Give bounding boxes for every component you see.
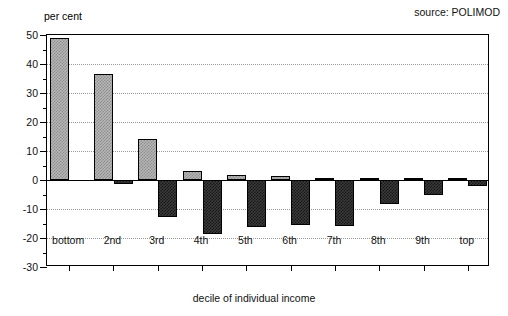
bar-gain bbox=[404, 178, 423, 180]
y-axis-minor-tick bbox=[43, 50, 47, 51]
x-axis-tick bbox=[379, 265, 380, 271]
bar-gain bbox=[271, 176, 290, 180]
bar-gain bbox=[360, 178, 379, 180]
bar-gain bbox=[183, 171, 202, 180]
gridline bbox=[47, 93, 488, 94]
x-axis-tick bbox=[335, 265, 336, 271]
x-axis-tick-label: 2nd bbox=[104, 234, 122, 246]
x-axis-tick-label: 6th bbox=[282, 234, 297, 246]
y-axis-tick-label: -10 bbox=[23, 203, 38, 215]
bar-gain bbox=[94, 74, 113, 180]
y-axis-tick bbox=[40, 122, 47, 123]
y-axis-minor-tick bbox=[43, 253, 47, 254]
y-axis-tick bbox=[40, 180, 47, 181]
plot-area: 50403020100-10-20-30 bbox=[46, 34, 489, 266]
bar-gain bbox=[227, 175, 246, 180]
gridline bbox=[47, 122, 488, 123]
x-axis-tick-label: 4th bbox=[194, 234, 209, 246]
x-axis-tick bbox=[468, 265, 469, 271]
bar-loss bbox=[468, 180, 487, 186]
bar-gain bbox=[315, 178, 334, 180]
y-axis-minor-tick bbox=[43, 108, 47, 109]
bar-loss bbox=[203, 180, 222, 234]
y-axis-tick-label: 20 bbox=[26, 116, 38, 128]
bar-loss bbox=[114, 180, 133, 184]
y-axis-tick bbox=[40, 93, 47, 94]
y-axis-minor-tick bbox=[43, 224, 47, 225]
x-axis-tick bbox=[246, 265, 247, 271]
x-axis-tick-label: 5th bbox=[238, 234, 253, 246]
y-axis-tick-label: -30 bbox=[23, 261, 38, 273]
x-axis-title: decile of individual income bbox=[0, 292, 508, 304]
x-axis-tick bbox=[424, 265, 425, 271]
gridline bbox=[47, 151, 488, 152]
x-axis-tick-label: 7th bbox=[327, 234, 342, 246]
x-axis-tick bbox=[69, 265, 70, 271]
x-axis-tick bbox=[202, 265, 203, 271]
x-axis-tick-label: 9th bbox=[415, 234, 430, 246]
bar-loss bbox=[335, 180, 354, 226]
y-axis-tick bbox=[40, 64, 47, 65]
bar-loss bbox=[291, 180, 310, 225]
gridline bbox=[47, 64, 488, 65]
y-axis-minor-tick bbox=[43, 195, 47, 196]
y-axis-tick-label: -20 bbox=[23, 232, 38, 244]
bar-loss bbox=[380, 180, 399, 204]
y-axis-unit-label: per cent bbox=[44, 10, 82, 22]
chart-figure: per cent source: POLIMOD 50403020100-10-… bbox=[0, 0, 508, 316]
bar-gain bbox=[138, 139, 157, 180]
x-axis-tick bbox=[113, 265, 114, 271]
source-annotation: source: POLIMOD bbox=[414, 6, 500, 18]
y-axis-tick-label: 50 bbox=[26, 29, 38, 41]
x-axis-tick bbox=[291, 265, 292, 271]
y-axis-tick-label: 0 bbox=[32, 174, 38, 186]
y-axis-tick-label: 10 bbox=[26, 145, 38, 157]
bar-loss bbox=[424, 180, 443, 195]
x-axis-tick-label: 3rd bbox=[149, 234, 164, 246]
y-axis-minor-tick bbox=[43, 79, 47, 80]
y-axis-tick-label: 40 bbox=[26, 58, 38, 70]
x-axis-tick-label: 8th bbox=[371, 234, 386, 246]
y-axis-minor-tick bbox=[43, 166, 47, 167]
bar-gain bbox=[448, 178, 467, 180]
y-axis-tick-label: 30 bbox=[26, 87, 38, 99]
x-axis-tick-label: bottom bbox=[52, 234, 84, 246]
bar-loss bbox=[158, 180, 177, 217]
x-axis-tick-label: top bbox=[460, 234, 475, 246]
bar-gain bbox=[50, 38, 69, 180]
bar-loss bbox=[247, 180, 266, 227]
gridline bbox=[47, 209, 488, 210]
y-axis-tick bbox=[40, 209, 47, 210]
y-axis-tick bbox=[40, 267, 47, 268]
x-axis-tick bbox=[158, 265, 159, 271]
y-axis-tick bbox=[40, 238, 47, 239]
y-axis-tick bbox=[40, 35, 47, 36]
y-axis-minor-tick bbox=[43, 137, 47, 138]
y-axis-tick bbox=[40, 151, 47, 152]
